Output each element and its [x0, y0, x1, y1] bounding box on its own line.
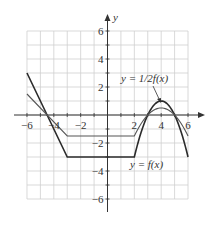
- f-label: y = f(x): [129, 158, 163, 171]
- x-tick-label: −2: [75, 119, 87, 131]
- x-tick-label: −4: [48, 119, 60, 131]
- y-tick-label: 6: [98, 25, 104, 37]
- y-tick-label: 2: [98, 81, 104, 93]
- x-tick-label: 6: [185, 119, 191, 131]
- y-tick-label: −6: [92, 193, 104, 205]
- x-tick-label: 4: [158, 119, 164, 131]
- y-tick-label: 4: [98, 53, 104, 65]
- y-axis-label: y: [112, 11, 118, 23]
- y-tick-label: −4: [92, 165, 104, 177]
- half-f-label: y = 1/2f(x): [120, 72, 168, 85]
- axes: [14, 14, 205, 212]
- y-tick-label: −2: [92, 137, 104, 149]
- x-axis-arrow-icon: [198, 112, 205, 118]
- function-graph: −6−4−2246642−2−4−6 y y = 1/2f(x) y = f(x…: [0, 0, 216, 227]
- x-tick-label: 2: [132, 119, 138, 131]
- x-tick-label: −6: [21, 119, 33, 131]
- y-axis-arrow-icon: [105, 14, 111, 21]
